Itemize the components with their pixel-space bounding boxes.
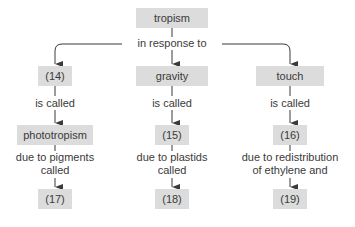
- link-is-called-1: is called: [20, 97, 90, 110]
- root-link-label: in response to: [122, 37, 222, 50]
- response-node-2: (15): [155, 125, 189, 145]
- link-is-called-2: is called: [137, 97, 207, 110]
- link-due-to-1a: due to pigments: [5, 151, 105, 164]
- link-due-to-3a: due to redistribution: [235, 151, 345, 164]
- link-is-called-3: is called: [255, 97, 325, 110]
- mechanism-node-2: (18): [155, 189, 189, 209]
- mechanism-node-1: (17): [38, 189, 72, 209]
- response-node-3: (16): [273, 125, 307, 145]
- stimulus-node-1: (14): [38, 66, 72, 86]
- link-due-to-1b: called: [30, 164, 80, 177]
- link-due-to-2b: called: [147, 164, 197, 177]
- response-node-1: phototropism: [17, 125, 93, 145]
- mechanism-node-3: (19): [273, 189, 307, 209]
- stimulus-node-2: gravity: [136, 66, 208, 86]
- link-due-to-3b: of ethylene and: [245, 164, 335, 177]
- stimulus-node-3: touch: [256, 66, 324, 86]
- link-due-to-2a: due to plastids: [122, 151, 222, 164]
- root-node-tropism: tropism: [136, 8, 208, 28]
